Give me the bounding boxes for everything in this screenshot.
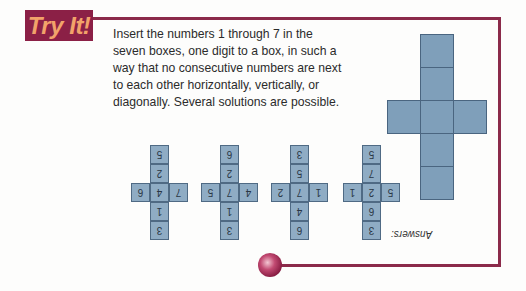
answer-cell: 3 xyxy=(290,145,309,164)
answer-cell: 5 xyxy=(201,183,220,202)
answer-cell: 4 xyxy=(150,183,169,202)
puzzle-instructions: Insert the numbers 1 through 7 in the se… xyxy=(113,26,348,111)
answers-label: Answers: xyxy=(391,229,432,240)
decorative-ball-icon xyxy=(258,253,282,277)
answer-grid-4: 3 1 7 4 6 2 5 xyxy=(127,144,193,240)
answer-cell: 5 xyxy=(290,164,309,183)
answer-grid-3: 3 1 4 7 5 2 6 xyxy=(197,144,263,240)
answer-cell: 7 xyxy=(169,183,188,202)
answer-cell: 3 xyxy=(362,221,381,240)
answer-cell: 7 xyxy=(290,183,309,202)
puzzle-cell-upper[interactable] xyxy=(420,67,454,101)
answer-cell: 1 xyxy=(343,183,362,202)
answer-cell: 7 xyxy=(220,183,239,202)
answer-cell: 6 xyxy=(220,145,239,164)
answer-grid-1: 3 6 5 2 1 7 5 xyxy=(339,144,405,240)
answer-cell: 2 xyxy=(271,183,290,202)
answer-cell: 2 xyxy=(220,164,239,183)
answer-cell: 7 xyxy=(362,164,381,183)
puzzle-cell-left[interactable] xyxy=(387,100,421,134)
answer-cell: 6 xyxy=(290,221,309,240)
answer-cell: 4 xyxy=(239,183,258,202)
puzzle-cell-top[interactable] xyxy=(420,34,454,68)
frame-bottom-rule xyxy=(272,264,501,267)
answer-cell: 2 xyxy=(150,164,169,183)
answer-grid-2: 6 4 1 7 2 5 3 xyxy=(267,144,333,240)
puzzle-cell-lower[interactable] xyxy=(420,133,454,167)
answer-cell: 3 xyxy=(220,221,239,240)
frame-top-rule xyxy=(92,17,501,20)
puzzle-cell-right[interactable] xyxy=(453,100,487,134)
puzzle-cell-bottom[interactable] xyxy=(420,166,454,200)
answer-cell: 5 xyxy=(362,145,381,164)
puzzle-cell-center[interactable] xyxy=(420,100,454,134)
answer-cell: 6 xyxy=(362,202,381,221)
answer-cell: 5 xyxy=(381,183,400,202)
answer-cell: 4 xyxy=(290,202,309,221)
try-it-label: Try It! xyxy=(28,12,91,40)
answer-cell: 3 xyxy=(150,221,169,240)
answer-cell: 6 xyxy=(131,183,150,202)
answer-cell: 1 xyxy=(150,202,169,221)
answer-cell: 5 xyxy=(150,145,169,164)
answers-block: 3 6 5 2 1 7 5 6 4 1 7 2 5 3 3 1 4 7 5 2 … xyxy=(95,142,405,240)
answer-cell: 1 xyxy=(220,202,239,221)
frame-right-rule xyxy=(498,17,501,267)
answer-cell: 2 xyxy=(362,183,381,202)
answer-cell: 1 xyxy=(309,183,328,202)
try-it-badge: Try It! xyxy=(25,10,93,41)
